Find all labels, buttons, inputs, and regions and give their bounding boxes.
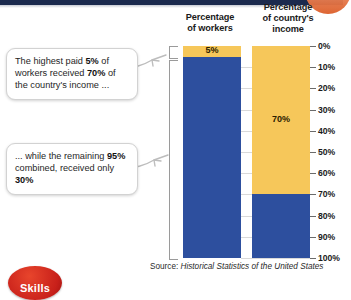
axis-tick-label: 50% <box>318 147 335 157</box>
skills-badge-label: Skills <box>8 282 62 294</box>
axis-tick <box>310 216 316 217</box>
axis-tick-label: 10% <box>318 62 335 72</box>
axis-tick <box>310 258 316 259</box>
source-prefix: Source: <box>150 262 181 271</box>
axis-tick <box>310 88 316 89</box>
axis-tick-label: 0% <box>318 41 330 51</box>
axis-tick-label: 90% <box>318 232 335 242</box>
callout-emphasis: 30% <box>15 175 33 185</box>
axis-tick-label: 30% <box>318 105 335 115</box>
axis-tick <box>310 152 316 153</box>
bar-percentage-of-workers: 5% <box>183 46 241 258</box>
callout-text: combined, received only <box>15 163 114 173</box>
callout-emphasis: 5% <box>86 56 99 66</box>
callout-text: The highest paid <box>15 56 86 66</box>
axis-tick-label: 60% <box>318 168 335 178</box>
bar-percentage-of-income: 70% <box>252 46 310 258</box>
callout-bottom: ... while the remaining 95% combined, re… <box>6 143 138 195</box>
axis-tick <box>310 67 316 68</box>
y-axis: 0%10%20%30%40%50%60%70%80%90%100% <box>310 46 343 258</box>
skills-badge[interactable]: Skills <box>8 266 62 300</box>
source-note: Source: Historical Statistics of the Uni… <box>150 262 323 271</box>
axis-tick-label: 80% <box>318 211 335 221</box>
axis-tick <box>310 237 316 238</box>
bar-value-label: 5% <box>183 45 241 55</box>
axis-tick <box>310 46 316 47</box>
callout-emphasis: 70% <box>87 68 105 78</box>
axis-tick <box>310 110 316 111</box>
axis-tick-label: 70% <box>318 189 335 199</box>
axis-tick-label: 20% <box>318 83 335 93</box>
axis-tick <box>310 131 316 132</box>
callout-top: The highest paid 5% of workers received … <box>6 48 138 100</box>
gridline <box>241 258 310 259</box>
source-title: Historical Statistics of the United Stat… <box>181 262 324 271</box>
axis-tick-label: 40% <box>318 126 335 136</box>
axis-tick <box>310 194 316 195</box>
callout-emphasis: 95% <box>107 151 125 161</box>
callout-text: ... while the remaining <box>15 151 107 161</box>
bar-segment-gold: 70% <box>252 46 310 194</box>
bar-value-label: 70% <box>252 114 310 124</box>
axis-tick <box>310 173 316 174</box>
bar-segment-blue <box>252 194 310 258</box>
bar-segment-blue <box>183 57 241 258</box>
bar-segment-gold: 5% <box>183 46 241 57</box>
